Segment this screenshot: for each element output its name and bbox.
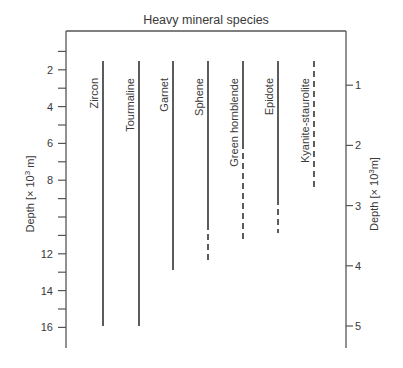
right-axis-ticks — [346, 85, 353, 326]
left-axis-tick-labels: 2468121416 — [41, 64, 53, 334]
species-label: Kyanite-staurolite — [299, 78, 311, 163]
species-range: Tourmaline — [124, 61, 139, 326]
chart: Heavy mineral species 2468121416 12345 D… — [0, 0, 403, 368]
right-tick-label: 3 — [355, 200, 361, 212]
right-tick-label: 1 — [355, 79, 361, 91]
right-axis-label: Depth [× 103m] — [367, 157, 380, 231]
species-label: Tourmaline — [124, 78, 136, 132]
species-range: Green hornblende — [228, 61, 243, 240]
left-tick-label: 14 — [41, 285, 53, 297]
right-axis-tick-labels: 12345 — [355, 79, 361, 332]
species-range: Sphene — [193, 61, 208, 260]
species-range: Garnet — [158, 61, 173, 270]
species-range: Zircon — [88, 61, 103, 326]
left-tick-label: 16 — [41, 321, 53, 333]
left-axis-ticks — [58, 51, 66, 327]
right-tick-label: 5 — [355, 320, 361, 332]
species-label: Sphene — [193, 78, 205, 116]
species-range: Epidote — [263, 61, 278, 233]
chart-title: Heavy mineral species — [143, 13, 269, 27]
left-axis-label: Depth [× 103 m] — [23, 156, 36, 233]
species-label: Garnet — [158, 78, 170, 112]
left-tick-label: 8 — [47, 174, 53, 186]
species-range: Kyanite-staurolite — [299, 61, 314, 189]
species-ranges: ZirconTourmalineGarnetSpheneGreen hornbl… — [88, 61, 314, 326]
left-tick-label: 6 — [47, 137, 53, 149]
left-tick-label: 12 — [41, 248, 53, 260]
species-label: Green hornblende — [228, 78, 240, 167]
species-label: Zircon — [88, 78, 100, 109]
right-tick-label: 4 — [355, 260, 361, 272]
left-tick-label: 4 — [47, 101, 53, 113]
species-label: Epidote — [263, 78, 275, 115]
right-tick-label: 2 — [355, 139, 361, 151]
left-tick-label: 2 — [47, 64, 53, 76]
